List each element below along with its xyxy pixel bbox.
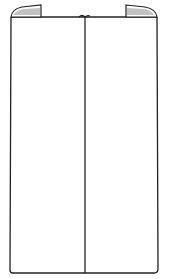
- left-edge: [10, 17, 13, 273]
- right-edge: [154, 17, 158, 273]
- folded-panel-drawing: [0, 0, 169, 279]
